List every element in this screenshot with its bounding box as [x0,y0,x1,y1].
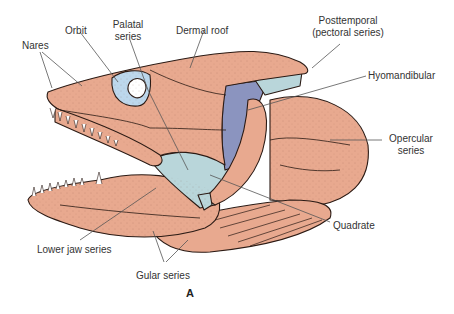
label-palatal-series: Palatal series [108,19,148,43]
label-posttemporal-line1: Posttemporal [308,15,388,27]
label-orbit: Orbit [65,25,87,37]
label-palatal-line2: series [108,31,148,43]
label-quadrate: Quadrate [333,220,375,232]
label-opercular-line2: series [385,145,437,157]
skull-illustration [0,0,454,314]
panel-label: A [186,287,194,299]
label-hyomandibular: Hyomandibular [368,70,435,82]
fish-skull-diagram: Nares Orbit Palatal series Dermal roof P… [0,0,454,314]
label-opercular-series: Opercular series [385,133,437,157]
label-palatal-line1: Palatal [108,19,148,31]
label-posttemporal-line2: (pectoral series) [308,27,388,39]
label-nares: Nares [22,40,49,52]
label-posttemporal: Posttemporal (pectoral series) [308,15,388,39]
label-gular-series: Gular series [136,270,190,282]
label-opercular-line1: Opercular [385,133,437,145]
label-dermal-roof: Dermal roof [176,25,228,37]
label-lower-jaw-series: Lower jaw series [37,244,111,256]
